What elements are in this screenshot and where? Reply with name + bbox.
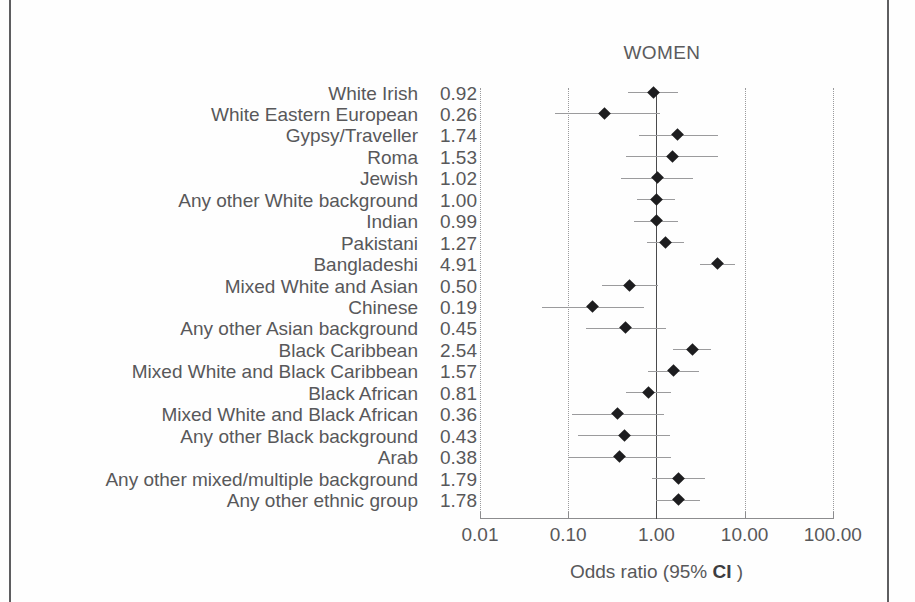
row-separator-dot: .	[407, 169, 412, 188]
gridline-10.00	[745, 88, 747, 518]
row-separator-dot: .	[407, 234, 412, 253]
row-label: Any other Black background	[180, 427, 418, 446]
row-label: Bangladeshi	[313, 255, 418, 274]
row-value: 1.74	[421, 126, 477, 145]
row-separator-dot: .	[407, 384, 412, 403]
gridline-0.10	[568, 88, 570, 518]
gridline-0.01	[480, 88, 482, 518]
point-estimate-marker	[598, 107, 611, 120]
row-separator-dot: .	[407, 105, 412, 124]
row-value: 0.38	[421, 448, 477, 467]
point-estimate-marker	[667, 364, 680, 377]
point-estimate-marker	[711, 257, 724, 270]
figure-panel: WOMEN 0.010.101.0010.00100.00White Irish…	[0, 0, 915, 602]
point-estimate-marker	[650, 214, 663, 227]
row-separator-dot: .	[407, 362, 412, 381]
row-value: 2.54	[421, 341, 477, 360]
point-estimate-marker	[619, 322, 632, 335]
x-axis-tick-0.01	[480, 512, 481, 519]
x-axis-tick-0.10	[568, 512, 569, 519]
row-separator-dot: .	[407, 212, 412, 231]
point-estimate-marker	[650, 193, 663, 206]
row-label: Gypsy/Traveller	[286, 126, 418, 145]
row-separator-dot: .	[407, 427, 412, 446]
x-axis-title-bold: CI	[712, 561, 731, 582]
x-axis-tick-label: 100.00	[773, 524, 893, 546]
row-value: 0.36	[421, 405, 477, 424]
row-label: Mixed White and Black Caribbean	[132, 362, 418, 381]
x-axis-title-suffix: )	[731, 561, 743, 582]
point-estimate-marker	[659, 236, 672, 249]
point-estimate-marker	[647, 86, 660, 99]
row-separator-dot: .	[407, 491, 412, 510]
row-separator-dot: .	[407, 319, 412, 338]
row-separator-dot: .	[407, 405, 412, 424]
point-estimate-marker	[613, 450, 626, 463]
row-value: 0.19	[421, 298, 477, 317]
row-label: Mixed White and Black African	[161, 405, 418, 424]
row-value: 0.50	[421, 277, 477, 296]
row-value: 0.45	[421, 319, 477, 338]
point-estimate-marker	[611, 407, 624, 420]
point-estimate-marker	[666, 150, 679, 163]
row-label: Any other White background	[178, 191, 418, 210]
row-label: Any other ethnic group	[227, 491, 418, 510]
gridline-100.00	[833, 88, 835, 518]
row-value: 0.92	[421, 84, 477, 103]
row-value: 0.81	[421, 384, 477, 403]
point-estimate-marker	[623, 279, 636, 292]
row-value: 1.00	[421, 191, 477, 210]
row-label: Black Caribbean	[279, 341, 418, 360]
row-value: 1.53	[421, 148, 477, 167]
row-value: 1.27	[421, 234, 477, 253]
row-separator-dot: .	[407, 298, 412, 317]
point-estimate-marker	[672, 493, 685, 506]
row-separator-dot: .	[407, 126, 412, 145]
point-estimate-marker	[586, 300, 599, 313]
point-estimate-marker	[672, 472, 685, 485]
x-axis-tick-100.00	[833, 512, 834, 519]
row-label: Mixed White and Asian	[225, 277, 418, 296]
point-estimate-marker	[618, 429, 631, 442]
row-separator-dot: .	[407, 255, 412, 274]
row-label: White Eastern European	[211, 105, 418, 124]
row-label: Any other Asian background	[180, 319, 418, 338]
point-estimate-marker	[671, 129, 684, 142]
row-label: Any other mixed/multiple background	[105, 470, 418, 489]
forest-plot: 0.010.101.0010.00100.00White Irish.0.92W…	[0, 0, 915, 602]
row-value: 4.91	[421, 255, 477, 274]
row-label: Black African	[308, 384, 418, 403]
row-separator-dot: .	[407, 84, 412, 103]
row-separator-dot: .	[407, 148, 412, 167]
x-axis-tick-10.00	[745, 512, 746, 519]
x-axis-title-prefix: Odds ratio (95%	[570, 561, 713, 582]
row-value: 1.78	[421, 491, 477, 510]
row-value: 1.57	[421, 362, 477, 381]
reference-line	[656, 90, 657, 518]
x-axis-tick-1.00	[656, 508, 657, 519]
x-axis-title: Odds ratio (95% CI )	[480, 561, 833, 583]
row-label: White Irish	[328, 84, 418, 103]
row-value: 1.79	[421, 470, 477, 489]
point-estimate-marker	[686, 343, 699, 356]
row-separator-dot: .	[407, 277, 412, 296]
row-separator-dot: .	[407, 470, 412, 489]
row-value: 1.02	[421, 169, 477, 188]
row-value: 0.43	[421, 427, 477, 446]
row-separator-dot: .	[407, 448, 412, 467]
row-value: 0.26	[421, 105, 477, 124]
row-value: 0.99	[421, 212, 477, 231]
row-separator-dot: .	[407, 191, 412, 210]
point-estimate-marker	[642, 386, 655, 399]
row-separator-dot: .	[407, 341, 412, 360]
point-estimate-marker	[651, 171, 664, 184]
